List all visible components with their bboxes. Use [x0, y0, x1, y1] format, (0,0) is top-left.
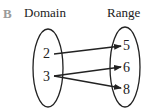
domain-value: 3: [43, 69, 50, 84]
mapping-diagram: 2 3 5 6 8: [0, 0, 153, 109]
range-value: 5: [123, 38, 130, 53]
domain-value: 2: [43, 46, 50, 61]
mapping-arrow: [54, 67, 121, 76]
domain-oval: [33, 29, 63, 107]
range-value: 8: [123, 82, 130, 97]
range-value: 6: [123, 60, 130, 75]
